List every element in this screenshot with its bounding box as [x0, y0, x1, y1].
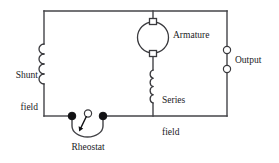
output-label: Output: [235, 55, 279, 66]
circuit-diagram: Shunt field Armature Series field Output…: [0, 0, 279, 163]
series-field-coil-symbol: [150, 70, 153, 103]
armature-circle: [138, 22, 169, 53]
shunt-field-label-line2: field: [2, 102, 38, 113]
series-field-label: Series field: [162, 74, 206, 158]
rheostat-wiper-pivot[interactable]: [84, 110, 91, 117]
shunt-field-label: Shunt field: [2, 49, 38, 133]
rheostat-node-right: [99, 112, 107, 120]
armature-brush-top-icon: [150, 19, 157, 25]
rheostat-wiper-arm[interactable]: [81, 117, 87, 129]
circuit-schematic-svg: [0, 0, 279, 163]
series-field-label-line2: field: [162, 127, 206, 138]
rheostat-track: [72, 116, 103, 137]
shunt-field-label-line1: Shunt: [2, 70, 38, 81]
rheostat-node-left: [68, 112, 76, 120]
armature-label: Armature: [173, 30, 233, 41]
armature-brush-bottom-icon: [150, 51, 157, 57]
output-terminal-upper[interactable]: [223, 46, 230, 53]
output-terminal-lower[interactable]: [223, 65, 230, 72]
rheostat-label: Rheostat: [58, 142, 118, 153]
shunt-field-coil-symbol: [39, 44, 44, 84]
series-field-label-line1: Series: [162, 95, 206, 106]
